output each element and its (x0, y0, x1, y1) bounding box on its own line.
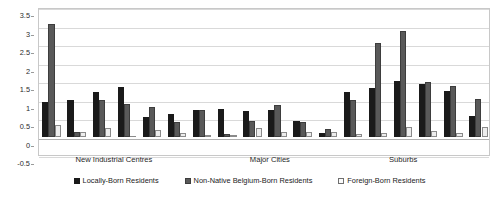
bar (482, 127, 488, 137)
bar-cluster (391, 9, 416, 155)
y-axis: 3.532.521.510.50-0.5 (0, 8, 34, 156)
bar (306, 132, 312, 137)
bar (155, 130, 161, 136)
bar-cluster (139, 9, 164, 155)
group-label: New Industrial Centres (76, 156, 153, 164)
bar (205, 135, 211, 137)
bar-cluster (340, 9, 365, 155)
y-tick-mark (31, 109, 34, 110)
y-tick-mark (31, 16, 34, 17)
bar-chart: 3.532.521.510.50-0.5 New Industrial Cent… (0, 0, 499, 199)
bar-cluster (290, 9, 315, 155)
group-label: Major Cities (250, 156, 290, 164)
bar (230, 135, 236, 137)
bar (67, 100, 73, 137)
bar (381, 133, 387, 136)
bar-cluster (64, 9, 89, 155)
bar (130, 136, 136, 137)
chart-legend: Locally-Born ResidentsNon-Native Belgium… (0, 177, 499, 184)
bar (218, 109, 224, 137)
legend-swatch-icon (185, 178, 191, 184)
bar (400, 31, 406, 137)
bar-cluster (165, 9, 190, 155)
bar-cluster (114, 9, 139, 155)
legend-item[interactable]: Locally-Born Residents (74, 177, 159, 184)
y-tick-mark (31, 35, 34, 36)
bar-cluster (240, 9, 265, 155)
bar (199, 110, 205, 137)
bar (425, 82, 431, 136)
bar (80, 132, 86, 136)
bar (48, 24, 54, 136)
bars-layer (39, 9, 489, 155)
y-tick-label: 1 (26, 105, 30, 112)
legend-swatch-icon (338, 178, 344, 184)
bar (350, 100, 356, 136)
bar (375, 43, 381, 137)
y-tick-mark (31, 146, 34, 147)
y-tick-label: 3.5 (20, 12, 30, 19)
legend-swatch-icon (74, 178, 80, 184)
y-tick-label: -0.5 (17, 160, 30, 167)
bar-cluster (441, 9, 466, 155)
legend-label: Foreign-Born Residents (347, 177, 425, 184)
bar-cluster (190, 9, 215, 155)
bar (456, 133, 462, 137)
bar (450, 86, 456, 137)
y-tick-mark (31, 127, 34, 128)
bar-cluster (39, 9, 64, 155)
group-label: Suburbs (389, 156, 417, 164)
bar-cluster (265, 9, 290, 155)
y-tick-label: 1.5 (20, 86, 30, 93)
y-tick-label: 2.5 (20, 49, 30, 56)
bar-cluster (89, 9, 114, 155)
legend-label: Non-Native Belgium-Born Residents (194, 177, 313, 184)
bar (431, 131, 437, 137)
plot-area (38, 8, 490, 156)
bar (256, 128, 262, 136)
y-tick-label: 0 (26, 142, 30, 149)
legend-item[interactable]: Foreign-Born Residents (338, 177, 425, 184)
bar (331, 132, 337, 136)
bar-cluster (365, 9, 390, 155)
y-tick-label: 3 (26, 31, 30, 38)
y-tick-label: 0.5 (20, 123, 30, 130)
y-tick-mark (31, 164, 34, 165)
y-tick-label: 2 (26, 68, 30, 75)
group-axis-labels: New Industrial CentresMajor CitiesSuburb… (38, 156, 490, 170)
y-tick-mark (31, 53, 34, 54)
bar-cluster (416, 9, 441, 155)
bar-cluster (466, 9, 489, 155)
legend-item[interactable]: Non-Native Belgium-Born Residents (185, 177, 313, 184)
bar-cluster (215, 9, 240, 155)
bar (124, 104, 130, 137)
bar (281, 132, 287, 137)
bar (406, 127, 412, 137)
bar (105, 128, 111, 136)
bar (55, 125, 61, 136)
bar (180, 133, 186, 137)
legend-label: Locally-Born Residents (83, 177, 159, 184)
bar-cluster (315, 9, 340, 155)
y-tick-mark (31, 72, 34, 73)
y-tick-mark (31, 90, 34, 91)
bar (356, 134, 362, 136)
